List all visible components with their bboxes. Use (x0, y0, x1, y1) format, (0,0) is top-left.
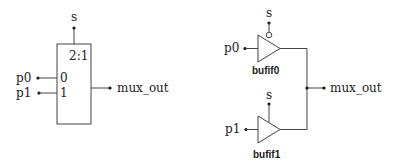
bufif-mux: s p0 bufif0 s p1 bufif1 mux_out (224, 6, 382, 160)
bufif1-gate: s p1 bufif1 (225, 88, 281, 160)
bufif0-gate: s p0 bufif0 (224, 6, 280, 76)
bufif-merge-wire (280, 49, 307, 130)
bufif0-enable-label: s (266, 6, 272, 20)
mux-input-p1-label: p1 (16, 86, 31, 100)
mux-ratio-label: 2:1 (69, 49, 88, 63)
bufif1-label: bufif1 (253, 149, 281, 160)
mux-2to1: s 2:1 p0 0 p1 1 mux_out (16, 10, 169, 124)
mux-pin-0-label: 0 (60, 71, 68, 85)
bufif0-triangle-icon (258, 35, 280, 62)
mux-select-label: s (71, 10, 77, 24)
mux-output-label: mux_out (117, 81, 169, 95)
bufif-output-dot (322, 86, 325, 89)
mux-pin-1-label: 1 (60, 86, 68, 100)
mux-output-dot (108, 86, 111, 89)
mux-input-p0-label: p0 (16, 71, 31, 85)
bufif0-inversion-bubble-icon (266, 32, 272, 38)
bufif1-input-label: p1 (225, 122, 240, 136)
bufif0-label: bufif0 (252, 65, 280, 76)
bufif-output-label: mux_out (330, 81, 382, 95)
bufif1-enable-label: s (266, 88, 272, 102)
schematic-canvas: s 2:1 p0 0 p1 1 mux_out s p0 bufif0 (0, 0, 394, 166)
bufif0-input-label: p0 (224, 41, 239, 55)
